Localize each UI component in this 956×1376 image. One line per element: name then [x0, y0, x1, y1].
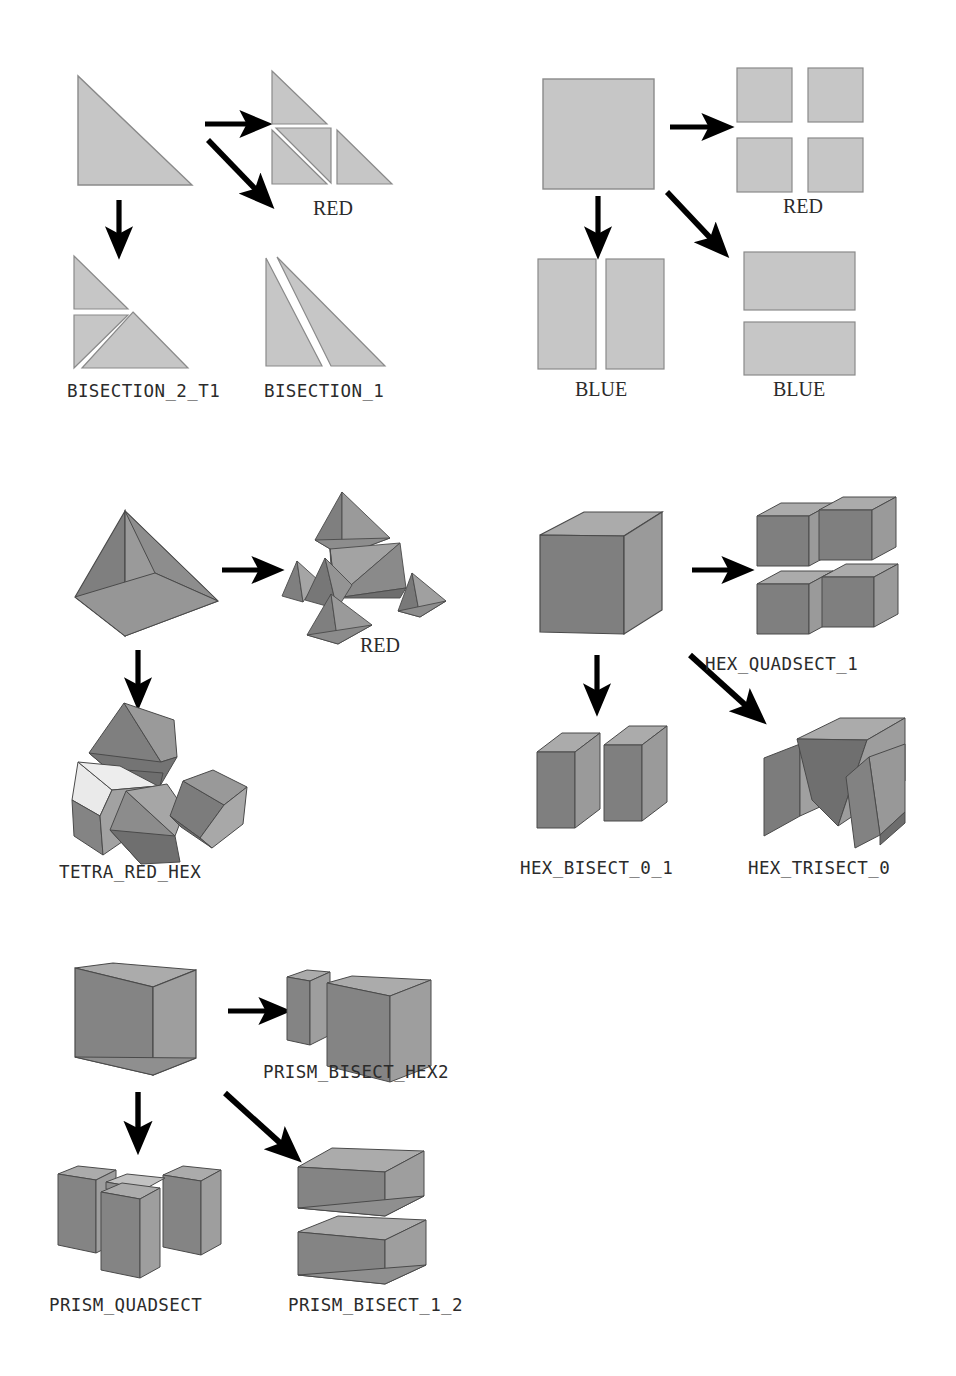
label-prism-bisect-hex2: PRISM_BISECT_HEX2 [263, 1062, 449, 1082]
result-quad-blue-horizontal [744, 252, 855, 375]
label-tri-red: RED [313, 197, 353, 219]
label-tetra-red: RED [360, 634, 400, 656]
result-tri-bisection-1 [266, 257, 385, 366]
label-hex-bisect-0-1: HEX_BISECT_0_1 [520, 858, 673, 878]
label-quad-red: RED [783, 195, 823, 217]
label-prism-quadsect: PRISM_QUADSECT [49, 1295, 202, 1315]
figure-canvas: RED BISECTION_2_T1 BISECTION_1 [0, 0, 956, 1376]
source-right-triangle [78, 76, 192, 185]
arrow-diagonal [667, 192, 717, 245]
label-prism-bisect-1-2: PRISM_BISECT_1_2 [288, 1295, 463, 1315]
source-square [543, 79, 654, 189]
result-hex-bisect-0-1 [537, 726, 667, 828]
result-prism-bisect-1-2 [298, 1148, 426, 1284]
label-tri-bisection-1: BISECTION_1 [264, 381, 384, 401]
label-tetra-red-hex: TETRA_RED_HEX [59, 862, 201, 882]
quad-subdivision-group: RED BLUE BLUE [538, 68, 863, 400]
result-tetra-red [282, 492, 446, 644]
tetrahedron-subdivision-group: RED TETRA_RED_HEX [59, 492, 446, 882]
source-triangular-prism [75, 963, 196, 1075]
label-tri-bisection-2-t1: BISECTION_2_T1 [67, 381, 220, 401]
label-hex-quadsect-1: HEX_QUADSECT_1 [705, 654, 858, 674]
arrow-diagonal [208, 140, 262, 196]
result-hex-quadsect-1 [757, 497, 898, 634]
result-tri-bisection-2-t1 [74, 256, 188, 368]
triangle-subdivision-group: RED BISECTION_2_T1 BISECTION_1 [67, 71, 392, 401]
prism-subdivision-group: PRISM_BISECT_HEX2 PRISM_QUADSECT [49, 963, 463, 1315]
result-quad-blue-vertical [538, 259, 664, 369]
hexahedron-subdivision-group: HEX_QUADSECT_1 HEX_BISECT_0_1 HEX_TRISEC [520, 497, 905, 878]
result-quad-red [737, 68, 863, 192]
label-quad-blue-right: BLUE [773, 378, 825, 400]
result-hex-trisect-0 [764, 718, 905, 848]
source-hexahedron [540, 512, 662, 634]
label-quad-blue-left: BLUE [575, 378, 627, 400]
source-tetrahedron [75, 511, 218, 636]
result-tetra-red-hex [72, 703, 247, 864]
subdivision-template-figure: RED BISECTION_2_T1 BISECTION_1 [0, 0, 956, 1376]
result-tri-red [272, 71, 392, 184]
result-prism-quadsect [58, 1166, 221, 1278]
label-hex-trisect-0: HEX_TRISECT_0 [748, 858, 890, 878]
arrow-diagonal [225, 1093, 288, 1150]
